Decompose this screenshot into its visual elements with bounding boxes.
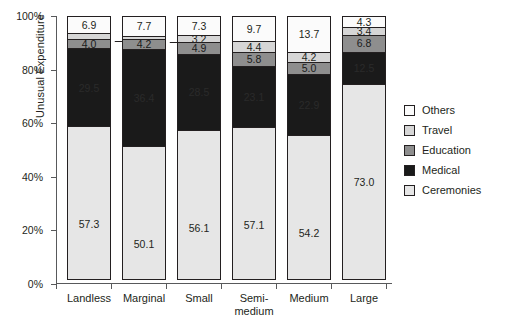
segment-medical[interactable]: 23.1 [232, 66, 276, 128]
y-tick-20: 20% [51, 230, 56, 231]
legend-swatch-education-icon [404, 145, 415, 156]
y-tick-label-80: 80% [22, 64, 43, 76]
legend-swatch-ceremonies-icon [404, 185, 415, 196]
stacked-bar-chart: Unusual Expenditure 0% 20% 40% 60% 80% 1… [0, 0, 508, 322]
y-tick-80: 80% [51, 70, 56, 71]
legend-label-education: Education [422, 144, 471, 156]
bar-semi-medium[interactable]: 9.7 4.4 5.8 23.1 57.1 [232, 16, 276, 284]
legend-item-travel[interactable]: Travel [404, 124, 481, 136]
segment-education[interactable]: 6.8 [342, 35, 386, 53]
segment-medical[interactable]: 28.5 [177, 54, 221, 130]
legend: Others Travel Education Medical Ceremoni… [404, 104, 481, 204]
y-tick-60: 60% [51, 123, 56, 124]
legend-label-ceremonies: Ceremonies [422, 184, 481, 196]
segment-ceremonies[interactable]: 57.1 [232, 127, 276, 280]
legend-item-ceremonies[interactable]: Ceremonies [404, 184, 481, 196]
bar-landless[interactable]: 6.9 2.3 4.0 29.5 57.3 [67, 16, 111, 284]
segment-others[interactable]: 9.7 [232, 16, 276, 42]
y-tick-40: 40% [51, 177, 56, 178]
y-tick-100: 100% [51, 16, 56, 17]
segment-medical[interactable]: 29.5 [67, 48, 111, 127]
segment-others[interactable]: 7.7 [122, 16, 166, 37]
segment-medical[interactable]: 12.5 [342, 52, 386, 86]
y-tick-label-60: 60% [22, 117, 43, 129]
legend-swatch-others-icon [404, 105, 415, 116]
legend-label-travel: Travel [422, 124, 452, 136]
segment-others[interactable]: 6.9 [67, 16, 111, 34]
y-tick-label-20: 20% [22, 224, 43, 236]
segment-ceremonies[interactable]: 50.1 [122, 146, 166, 280]
segment-medical[interactable]: 36.4 [122, 49, 166, 147]
legend-swatch-travel-icon [404, 125, 415, 136]
segment-medical[interactable]: 22.9 [287, 74, 331, 135]
y-tick-label-40: 40% [22, 171, 43, 183]
bar-small[interactable]: 7.3 3.2 4.9 28.5 56.1 [177, 16, 221, 284]
bar-medium[interactable]: 13.7 4.2 5.0 22.9 54.2 [287, 16, 331, 284]
bar-marginal[interactable]: 7.7 1.6 4.2 36.4 50.1 [122, 16, 166, 284]
segment-education[interactable]: 5.8 [232, 52, 276, 68]
y-tick-label-100: 100% [16, 10, 43, 22]
segment-others[interactable]: 13.7 [287, 16, 331, 53]
segment-ceremonies[interactable]: 54.2 [287, 135, 331, 280]
legend-item-education[interactable]: Education [404, 144, 481, 156]
segment-ceremonies[interactable]: 56.1 [177, 130, 221, 280]
segment-ceremonies[interactable]: 57.3 [67, 126, 111, 280]
legend-swatch-medical-icon [404, 165, 415, 176]
legend-label-medical: Medical [422, 164, 460, 176]
y-axis-line [56, 16, 57, 284]
segment-education[interactable]: 5.0 [287, 62, 331, 75]
legend-label-others: Others [422, 104, 455, 116]
segment-ceremonies[interactable]: 73.0 [342, 84, 386, 280]
plot-area: 0% 20% 40% 60% 80% 100% 6.9 2.3 4.0 29.5… [56, 16, 386, 284]
x-label-large: Large [321, 292, 407, 305]
y-tick-label-0: 0% [28, 278, 43, 290]
legend-item-others[interactable]: Others [404, 104, 481, 116]
bar-large[interactable]: 4.3 3.4 6.8 12.5 73.0 [342, 16, 386, 284]
legend-item-medical[interactable]: Medical [404, 164, 481, 176]
